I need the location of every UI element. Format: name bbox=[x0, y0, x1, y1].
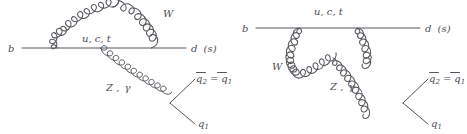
right-equals-sign: = bbox=[443, 73, 451, 84]
left-w-boson-label: W bbox=[163, 8, 174, 19]
right-w-apex-connector bbox=[298, 53, 336, 78]
left-outgoing-quark-paren: (s) bbox=[204, 43, 217, 54]
left-incoming-quark-label: b bbox=[8, 43, 14, 54]
svg-text:Z , γ: Z , γ bbox=[105, 82, 131, 93]
left-quark-out-subscript: 1 bbox=[204, 123, 208, 131]
right-gauge-boson-label: Z , γ bbox=[329, 81, 355, 92]
right-antiquark-line bbox=[403, 79, 428, 103]
left-gauge-boson-label: Z , γ bbox=[105, 82, 131, 93]
right-w-boson-wave-left bbox=[286, 28, 302, 78]
svg-text:q2=q1: q2=q1 bbox=[196, 73, 232, 86]
right-quark-out-subscript: 1 bbox=[437, 123, 441, 131]
right-quark-line bbox=[403, 103, 428, 124]
svg-text:q2=q1: q2=q1 bbox=[429, 73, 465, 86]
right-gauge-boson-z: Z bbox=[329, 81, 338, 92]
left-quark-out-label: q1 bbox=[198, 118, 209, 131]
left-diagram: b u, c, t W d (s) Z , γ q2=q1 q1 bbox=[8, 0, 232, 131]
svg-text:q1: q1 bbox=[431, 118, 442, 131]
left-antiquark-left-subscript: 2 bbox=[201, 78, 207, 86]
right-antiquark-right-subscript: 1 bbox=[461, 78, 465, 86]
right-outgoing-quark-main: d bbox=[425, 23, 431, 34]
right-w-boson-wave-right bbox=[355, 28, 371, 68]
left-w-boson-wave-right bbox=[113, 0, 158, 48]
right-quark-out-label: q1 bbox=[431, 118, 442, 131]
left-loop-quarks-label: u, c, t bbox=[82, 33, 112, 44]
left-antiquark-line bbox=[170, 79, 195, 103]
feynman-diagram-figure: b u, c, t W d (s) Z , γ q2=q1 q1 bbox=[0, 0, 467, 134]
right-diagram: b u, c, t W d (s) Z , γ q2=q1 q1 bbox=[242, 6, 465, 131]
left-quark-line bbox=[170, 103, 195, 124]
left-gauge-boson-z: Z bbox=[105, 82, 114, 93]
left-antiquark-right-subscript: 1 bbox=[228, 78, 232, 86]
svg-text:d (s): d (s) bbox=[425, 23, 451, 34]
right-antiquark-left-subscript: 2 bbox=[434, 78, 440, 86]
left-equals-sign: = bbox=[210, 73, 218, 84]
svg-text:q1: q1 bbox=[198, 118, 209, 131]
left-gauge-boson-gamma: γ bbox=[125, 82, 131, 93]
right-outgoing-quark-label: d (s) bbox=[425, 23, 451, 34]
svg-text:d (s): d (s) bbox=[191, 43, 217, 54]
left-outgoing-quark-main: d bbox=[191, 43, 197, 54]
right-w-boson-label: W bbox=[272, 61, 283, 72]
right-antiquark-pair-label: q2=q1 bbox=[429, 73, 465, 86]
left-outgoing-quark-label: d (s) bbox=[191, 43, 217, 54]
svg-text:Z , γ: Z , γ bbox=[329, 81, 355, 92]
right-loop-quarks-label: u, c, t bbox=[314, 6, 344, 17]
right-outgoing-quark-paren: (s) bbox=[438, 23, 451, 34]
right-incoming-quark-label: b bbox=[242, 23, 248, 34]
left-antiquark-pair-label: q2=q1 bbox=[196, 73, 232, 86]
right-gauge-boson-gamma: γ bbox=[349, 81, 355, 92]
